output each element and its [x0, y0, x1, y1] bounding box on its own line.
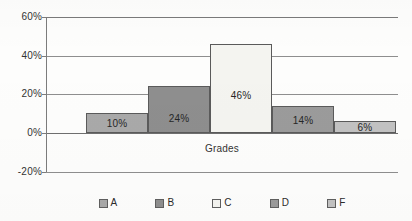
legend-swatch-icon-B	[155, 199, 164, 208]
y-tick-label-20: 20%	[0, 89, 42, 99]
y-axis-tick-labels: 60% 40% 20% 0% -20%	[0, 17, 42, 172]
legend-label-A: A	[111, 198, 118, 208]
y-tick-mark-neg20	[42, 172, 46, 173]
y-tick-label-neg20: -20%	[0, 167, 42, 177]
legend-swatch-icon-F	[327, 199, 336, 208]
y-tick-label-60: 60%	[0, 12, 42, 22]
legend-item-D[interactable]: D	[270, 198, 289, 208]
legend-swatch-icon-C	[212, 199, 221, 208]
bar-value-label-B: 24%	[149, 114, 209, 124]
y-tick-label-0: 0%	[0, 128, 42, 138]
legend-item-B[interactable]: B	[155, 198, 174, 208]
bar-value-label-D: 14%	[273, 116, 333, 126]
bar-value-label-C: 46%	[211, 91, 271, 101]
legend-item-C[interactable]: C	[212, 198, 231, 208]
bar-chart: 60% 40% 20% 0% -20% 10% 24% 46%	[0, 0, 412, 221]
bar-B: 24%	[148, 86, 210, 133]
legend-item-A[interactable]: A	[99, 198, 118, 208]
bar-value-label-F: 6%	[335, 123, 395, 133]
bar-C: 46%	[210, 44, 272, 133]
legend-label-C: C	[224, 198, 231, 208]
legend-label-D: D	[282, 198, 289, 208]
legend-swatch-icon-A	[99, 199, 108, 208]
bar-D: 14%	[272, 106, 334, 133]
bar-value-label-A: 10%	[87, 119, 147, 129]
y-tick-label-40: 40%	[0, 51, 42, 61]
bar-A: 10%	[86, 113, 148, 133]
x-axis-title: Grades	[46, 143, 398, 154]
legend-label-B: B	[167, 198, 174, 208]
gridline-neg20	[46, 172, 398, 173]
legend-label-F: F	[339, 198, 345, 208]
chart-legend: A B C D F	[46, 194, 398, 212]
legend-item-F[interactable]: F	[327, 198, 345, 208]
bar-F: 6%	[334, 121, 396, 133]
legend-swatch-icon-D	[270, 199, 279, 208]
